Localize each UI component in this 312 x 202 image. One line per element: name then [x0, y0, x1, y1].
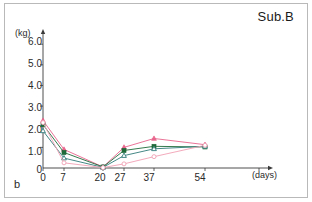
y-axis-arrow	[41, 29, 45, 34]
data-point-marker	[41, 121, 45, 125]
data-point-marker	[122, 162, 126, 166]
data-point-marker	[122, 153, 127, 157]
data-point-marker	[62, 151, 66, 155]
data-series-group	[41, 118, 208, 170]
data-point-marker	[101, 166, 105, 170]
series-line	[43, 121, 205, 167]
x-axis-arrow	[268, 166, 273, 170]
axis-ticks	[40, 44, 259, 171]
data-point-marker	[203, 143, 207, 147]
data-point-marker	[152, 155, 156, 159]
data-point-marker	[122, 148, 126, 152]
figure-panel: Sub.B b (kg) (days) 6.0 5.0 4.0 3.0 2.0 …	[0, 0, 312, 202]
data-point-marker	[62, 161, 66, 165]
data-point-marker	[152, 136, 157, 140]
data-point-marker	[41, 128, 46, 132]
chart-plot-area	[0, 0, 312, 202]
